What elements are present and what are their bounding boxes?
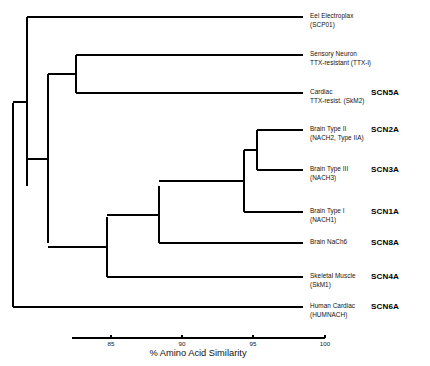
tip-label-SCN1A: Brain Type I(NACH1) xyxy=(310,207,345,224)
tip-name-secondary: (NACH1) xyxy=(310,216,345,225)
tip-name-secondary: (NACH3) xyxy=(310,174,348,183)
tip-name-primary: Brain Type II xyxy=(310,125,346,132)
phylogenetic-tree-figure: Eel Electroplax(SCP01)Sensory NeuronTTX-… xyxy=(0,0,430,366)
tip-label-SCN5A: CardiacTTX-resist. (SkM2) xyxy=(310,88,365,105)
gene-code-SCN2A: SCN2A xyxy=(371,125,399,134)
gene-code-SCN6A: SCN6A xyxy=(371,302,399,311)
gene-code-SCN3A: SCN3A xyxy=(371,165,399,174)
gene-code-SCN4A: SCN4A xyxy=(371,272,399,281)
tip-name-primary: Brain Type I xyxy=(310,207,345,214)
tip-name-primary: Cardiac xyxy=(310,88,332,95)
tip-name-secondary: (HUMNACH) xyxy=(310,311,355,320)
tip-name-secondary: TTX-resist. (SkM2) xyxy=(310,97,365,106)
tip-name-secondary: (SCP01) xyxy=(310,21,353,30)
tip-name-secondary: TTX-resistant (TTX-i) xyxy=(310,59,371,68)
axis-tick-label-100: 100 xyxy=(320,340,330,347)
tip-name-primary: Sensory Neuron xyxy=(310,50,357,57)
gene-code-SCN1A: SCN1A xyxy=(371,207,399,216)
tip-label-SCN4A: Skeletal Muscle(SkM1) xyxy=(310,272,356,289)
tip-name-primary: Brain NaCh6 xyxy=(310,238,347,245)
tip-name-primary: Brain Type III xyxy=(310,165,348,172)
tip-label-SCN2A: Brain Type II(NACH2, Type IIA) xyxy=(310,125,364,142)
tip-label-SCP01: Eel Electroplax(SCP01) xyxy=(310,12,353,29)
axis-tick-label-90: 90 xyxy=(179,340,186,347)
axis-title: % Amino Acid Similarity xyxy=(149,348,246,358)
tip-label-SCN6A: Human Cardiac(HUMNACH) xyxy=(310,302,355,319)
gene-code-SCN5A: SCN5A xyxy=(371,88,399,97)
tip-label-SCN3A: Brain Type III(NACH3) xyxy=(310,165,348,182)
tip-label-SCN8A: Brain NaCh6 xyxy=(310,238,347,247)
tip-name-secondary: (NACH2, Type IIA) xyxy=(310,134,364,143)
tip-name-secondary: (SkM1) xyxy=(310,281,356,290)
tip-label-TTXi: Sensory NeuronTTX-resistant (TTX-i) xyxy=(310,50,371,67)
tip-name-primary: Eel Electroplax xyxy=(310,12,353,19)
axis-tick-label-95: 95 xyxy=(250,340,257,347)
tip-name-primary: Human Cardiac xyxy=(310,302,355,309)
axis-tick-label-85: 85 xyxy=(108,340,115,347)
gene-code-SCN8A: SCN8A xyxy=(371,238,399,247)
tip-name-primary: Skeletal Muscle xyxy=(310,272,356,279)
